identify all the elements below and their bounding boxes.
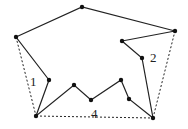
vertex-point: [140, 56, 144, 60]
pocket-label-1: 1: [30, 75, 37, 88]
hull-edge: [153, 31, 175, 118]
vertex-point: [80, 5, 84, 9]
vertex-point: [14, 35, 18, 39]
vertex-point: [119, 78, 123, 82]
vertex-point: [47, 78, 51, 82]
pocket-label-4: 4: [91, 107, 98, 120]
pocket-label-2: 2: [150, 51, 157, 64]
diagram-canvas: 1 2 4: [0, 0, 188, 129]
vertex-point: [89, 98, 93, 102]
vertex-point: [173, 29, 177, 33]
vertex-point: [127, 97, 131, 101]
vertex-point: [34, 114, 38, 118]
vertex-point: [151, 116, 155, 120]
vertex-point: [120, 39, 124, 43]
vertex-point: [72, 83, 76, 87]
